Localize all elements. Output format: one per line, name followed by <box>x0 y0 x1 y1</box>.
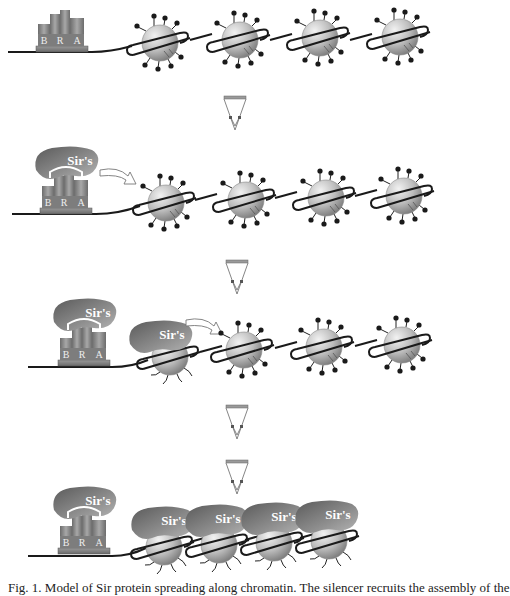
nucleosome-free <box>211 320 274 378</box>
silencer-letter-r: R <box>57 35 64 46</box>
sir-complex-nucleosome: Sir's <box>295 500 358 533</box>
step-arrow-3a <box>226 405 248 439</box>
nucleosome-free <box>291 317 354 375</box>
silencer-letter-b: B <box>45 197 52 208</box>
panel-4: B R A Sir's Sir's Sir's Sir's Sir's <box>28 486 359 574</box>
sir-complex-nucleosome: Sir's <box>131 506 194 539</box>
sir-label: Sir's <box>325 507 350 522</box>
silencer-letter-r: R <box>79 537 86 548</box>
nucleosome-free <box>293 168 356 226</box>
nucleosome-free <box>127 13 190 71</box>
sir-complex-silencer: Sir's <box>53 298 116 331</box>
sir-complex-nucleosome: Sir's <box>129 320 192 353</box>
silencer-letter-a: A <box>73 35 81 46</box>
sir-label: Sir's <box>215 511 240 526</box>
figure-caption: Fig. 1. Model of Sir protein spreading a… <box>8 580 444 596</box>
panel-3: B R A Sir's Sir's <box>28 298 432 384</box>
silencer-letter-a: A <box>95 349 103 360</box>
sir-label: Sir's <box>161 513 186 528</box>
sir-label: Sir's <box>67 153 92 168</box>
step-arrow-2 <box>226 260 248 294</box>
silencer-letter-b: B <box>63 349 70 360</box>
silencer-bra: B R A <box>36 10 88 52</box>
nucleosome-free <box>369 315 432 373</box>
silencer-letter-b: B <box>63 537 70 548</box>
nucleosome-free <box>371 166 434 224</box>
panel-1: B R A <box>8 7 430 71</box>
silencer-letter-a: A <box>77 197 85 208</box>
sir-label: Sir's <box>85 305 110 320</box>
nucleosome-free <box>133 173 196 231</box>
sir-complex-silencer: Sir's <box>35 146 98 179</box>
sir-label: Sir's <box>271 509 296 524</box>
sir-label: Sir's <box>85 493 110 508</box>
silencer-letter-r: R <box>61 197 68 208</box>
silencer-letter-a: A <box>95 537 103 548</box>
nucleosome-free <box>367 7 430 65</box>
sir-complex-nucleosome: Sir's <box>241 502 304 535</box>
step-arrow-3b <box>226 460 248 494</box>
step-arrow-1 <box>224 96 246 130</box>
silencer-letter-r: R <box>79 349 86 360</box>
nucleosome-free <box>213 170 276 228</box>
sir-complex-nucleosome: Sir's <box>185 504 248 537</box>
panel-2: B R A Sir's <box>12 146 434 231</box>
spread-arrow <box>100 169 136 184</box>
sir-label: Sir's <box>159 327 184 342</box>
nucleosome-free <box>207 10 270 68</box>
sir-complex-silencer: Sir's <box>53 486 116 519</box>
silencer-letter-b: B <box>41 35 48 46</box>
nucleosome-free <box>287 8 350 66</box>
